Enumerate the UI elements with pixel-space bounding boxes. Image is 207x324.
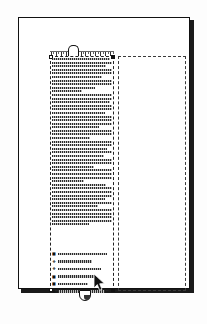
text-line bbox=[52, 123, 112, 125]
ruler-tick bbox=[93, 52, 94, 54]
list-item-text bbox=[58, 275, 96, 277]
outflow-cup-icon bbox=[79, 290, 91, 301]
text-frame-right[interactable] bbox=[118, 56, 186, 291]
text-line bbox=[52, 108, 112, 110]
outflow-cup-fill-icon bbox=[84, 295, 90, 300]
text-line bbox=[52, 195, 112, 197]
text-line bbox=[52, 155, 104, 157]
ruler-tick bbox=[113, 52, 114, 54]
text-line bbox=[52, 58, 110, 60]
text-line bbox=[52, 83, 112, 85]
diamond-bullet-icon: ❖ bbox=[52, 290, 56, 294]
text-outflow-port[interactable] bbox=[78, 289, 92, 302]
text-line bbox=[52, 166, 94, 168]
diamond-bullet-icon: ❖ bbox=[52, 260, 56, 264]
text-line bbox=[52, 173, 112, 175]
text-line bbox=[52, 105, 112, 107]
text-line bbox=[52, 180, 84, 182]
ruler-tick bbox=[53, 52, 54, 54]
text-line bbox=[52, 112, 105, 114]
text-line bbox=[52, 80, 112, 82]
document-page[interactable]: ■❖❖■■❖ bbox=[18, 17, 190, 289]
list-item: ❖ bbox=[52, 266, 112, 272]
ruler-tick bbox=[63, 52, 64, 54]
ruler-tick bbox=[58, 52, 59, 54]
text-line bbox=[52, 187, 112, 189]
text-line bbox=[52, 159, 112, 161]
text-line bbox=[52, 116, 112, 118]
list-item-text bbox=[58, 260, 92, 262]
text-line bbox=[52, 98, 112, 100]
ruler-tick bbox=[103, 52, 104, 54]
text-line bbox=[52, 130, 112, 132]
square-bullet-icon: ■ bbox=[52, 275, 56, 279]
text-line bbox=[52, 126, 99, 128]
text-line bbox=[52, 62, 112, 64]
text-line bbox=[52, 69, 112, 71]
text-line bbox=[52, 184, 106, 186]
text-line bbox=[52, 144, 112, 146]
text-line bbox=[52, 169, 112, 171]
ruler-tick bbox=[108, 52, 109, 54]
text-line bbox=[52, 65, 106, 67]
list-item-text bbox=[58, 253, 107, 255]
text-line bbox=[52, 72, 112, 74]
text-line bbox=[52, 76, 102, 78]
list-item-text bbox=[58, 283, 88, 285]
text-line bbox=[52, 133, 112, 135]
text-line bbox=[52, 119, 112, 121]
list-item-text bbox=[58, 268, 101, 270]
text-line bbox=[52, 94, 112, 96]
text-line bbox=[52, 220, 112, 222]
text-line bbox=[52, 209, 112, 211]
text-line bbox=[52, 162, 112, 164]
text-line bbox=[52, 213, 112, 215]
text-line bbox=[52, 151, 112, 153]
square-bullet-icon: ■ bbox=[52, 252, 56, 256]
square-bullet-icon: ■ bbox=[52, 282, 56, 286]
text-line bbox=[52, 101, 110, 103]
list-item: ■ bbox=[52, 251, 112, 257]
text-line bbox=[52, 137, 90, 139]
ruler-tick bbox=[88, 52, 89, 54]
text-line bbox=[52, 205, 98, 207]
text-line bbox=[52, 202, 112, 204]
text-line bbox=[52, 198, 105, 200]
text-line bbox=[52, 148, 107, 150]
list-item: ❖ bbox=[52, 259, 112, 265]
text-line bbox=[52, 191, 112, 193]
ruler-tick bbox=[98, 52, 99, 54]
text-line bbox=[52, 177, 112, 179]
text-line bbox=[52, 223, 89, 225]
greeked-text-block[interactable] bbox=[52, 58, 112, 250]
diamond-bullet-icon: ❖ bbox=[52, 267, 56, 271]
inflow-hook-icon bbox=[68, 45, 79, 56]
text-line bbox=[52, 90, 82, 92]
text-line bbox=[52, 216, 112, 218]
text-line bbox=[52, 87, 95, 89]
text-line bbox=[52, 141, 112, 143]
ruler-tick bbox=[83, 52, 84, 54]
workspace-canvas[interactable]: ■❖❖■■❖ bbox=[0, 0, 207, 324]
mouse-pointer-icon bbox=[94, 274, 106, 292]
